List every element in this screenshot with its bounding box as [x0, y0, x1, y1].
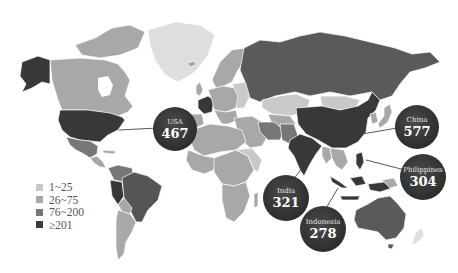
- region-balkans: [214, 110, 238, 124]
- region-russia: [240, 32, 440, 102]
- bubble-philippines-name: Philippines: [403, 166, 442, 174]
- bubble-india: India 321: [263, 175, 309, 221]
- region-canada: [50, 58, 133, 116]
- bubble-usa-name: USA: [167, 118, 183, 126]
- legend-item-2: 26~75: [36, 194, 84, 207]
- legend-label-1: 1~25: [49, 181, 72, 194]
- bubble-india-name: India: [277, 187, 295, 195]
- region-korea: [370, 112, 378, 124]
- region-japan: [378, 104, 392, 128]
- region-philippines: [356, 152, 364, 170]
- bubble-philippines-value: 304: [409, 174, 436, 189]
- region-new-zealand: [412, 228, 424, 246]
- legend-label-2: 26~75: [49, 194, 78, 207]
- bubble-china-name: China: [407, 116, 428, 124]
- bubble-indonesia: Indonesia 278: [300, 206, 346, 252]
- legend-item-4: ≥201: [36, 219, 84, 232]
- leader-philippines: [366, 160, 405, 170]
- map-legend: 1~25 26~75 76~200 ≥201: [36, 181, 84, 231]
- legend-label-4: ≥201: [49, 219, 73, 232]
- bubble-indonesia-value: 278: [309, 226, 336, 241]
- bubble-india-value: 321: [272, 195, 299, 210]
- region-se-asia: [330, 148, 348, 170]
- region-uk: [196, 82, 203, 96]
- region-australia: [354, 196, 406, 240]
- region-alaska: [20, 56, 50, 92]
- bubble-usa-value: 467: [161, 126, 188, 141]
- region-india: [288, 134, 322, 176]
- region-caribbean: [102, 150, 116, 154]
- region-southern-africa: [222, 182, 250, 222]
- region-greenland: [148, 22, 215, 82]
- region-argentina-chile: [116, 210, 136, 260]
- bubble-china-value: 577: [403, 124, 430, 139]
- legend-label-3: 76~200: [49, 206, 84, 219]
- world-map: [0, 0, 458, 273]
- legend-swatch-3: [36, 209, 43, 216]
- region-madagascar: [254, 192, 258, 208]
- bubble-usa: USA 467: [153, 107, 197, 151]
- legend-swatch-1: [36, 184, 43, 191]
- bubble-indonesia-name: Indonesia: [306, 218, 341, 226]
- legend-item-3: 76~200: [36, 206, 84, 219]
- bubble-philippines: Philippines 304: [400, 154, 446, 200]
- legend-swatch-4: [36, 221, 43, 228]
- legend-item-1: 1~25: [36, 181, 84, 194]
- legend-swatch-2: [36, 196, 43, 203]
- region-tasmania: [388, 244, 394, 249]
- region-central-america: [90, 156, 106, 168]
- leader-china: [362, 128, 397, 134]
- region-canada-arctic: [75, 25, 145, 58]
- bubble-china: China 577: [395, 105, 439, 149]
